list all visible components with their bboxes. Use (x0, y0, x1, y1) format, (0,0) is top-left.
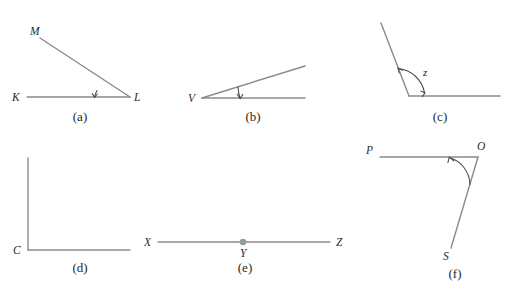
panel-a-label-k: K (11, 91, 21, 103)
panel-c: z (c) (381, 23, 500, 124)
panel-a-label-l: L (133, 91, 140, 103)
panel-a: M K L (a) (11, 25, 140, 124)
panel-f-label-s: S (443, 250, 449, 262)
panel-b-ray-upper (202, 66, 305, 98)
panel-f-ray-os (451, 157, 478, 248)
panel-f-label-p: P (365, 144, 373, 156)
panel-b-label-v: V (188, 92, 197, 104)
panel-a-ray-lm (40, 38, 130, 97)
panel-f: P O S (f) (365, 140, 486, 281)
panel-d-caption: (d) (72, 260, 87, 275)
panel-c-angle-label-z: z (422, 66, 428, 78)
panel-e-label-z: Z (336, 236, 343, 248)
panel-e: X Y Z (e) (143, 236, 343, 275)
panel-d: C (d) (13, 158, 130, 275)
panel-e-point-dot-y (240, 239, 247, 246)
panel-e-label-x: X (143, 236, 152, 248)
geometry-figure-page: M K L (a) V (b) z (c) C (0, 0, 520, 296)
panel-d-label-c: C (13, 244, 21, 256)
panel-b: V (b) (188, 66, 305, 124)
panel-b-caption: (b) (245, 109, 260, 124)
panel-c-ray-upper-left (381, 23, 409, 96)
panel-a-label-m: M (29, 25, 41, 37)
panel-e-label-y: Y (240, 247, 248, 259)
geometry-figure-canvas: M K L (a) V (b) z (c) C (0, 0, 520, 296)
panel-e-caption: (e) (238, 260, 252, 275)
panel-f-arc-arrowhead (448, 157, 454, 162)
panel-f-caption: (f) (449, 266, 462, 281)
panel-f-label-o: O (477, 140, 486, 152)
panel-c-caption: (c) (433, 109, 447, 124)
panel-f-angle-arc (450, 158, 471, 185)
panel-a-caption: (a) (73, 109, 87, 124)
